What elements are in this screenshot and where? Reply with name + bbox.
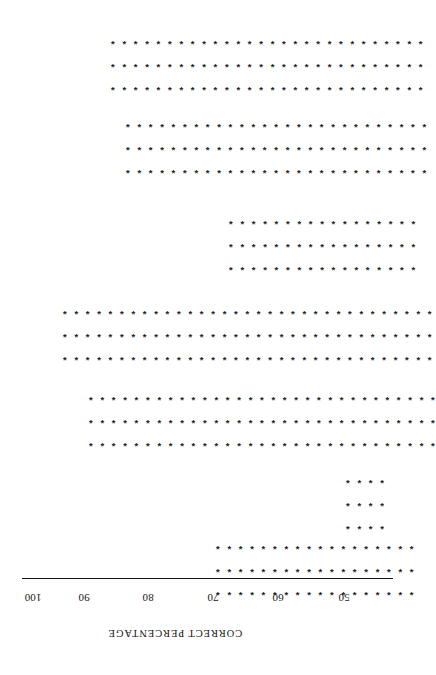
x-tick-80: 80 xyxy=(136,592,160,604)
bar-4-line-1: * * * * * * * * * * * * * * * * * * * * … xyxy=(62,312,433,320)
x-axis-title: CORRECT PERCENTAGE xyxy=(0,628,414,639)
x-tick-90: 90 xyxy=(72,592,96,604)
bar-2-line-1: * * * * * * * * * * * * * * * * * * * * … xyxy=(125,125,427,133)
x-tick-60: 60 xyxy=(266,592,290,604)
plot-area: * * * * * * * * * * * * * * * * * * * * … xyxy=(0,0,414,578)
bar-4-line-2: * * * * * * * * * * * * * * * * * * * * … xyxy=(62,335,433,343)
x-axis-tick-labels: 100 90 80 70 60 50 xyxy=(0,592,414,624)
bar-5-line-2: * * * * * * * * * * * * * * * * * * * * … xyxy=(88,421,436,429)
bar-6-line-1: * * * * xyxy=(345,481,385,489)
bar-7-line-2: * * * * * * * * * * * * * * * * * * xyxy=(215,570,415,578)
bar-2-line-3: * * * * * * * * * * * * * * * * * * * * … xyxy=(125,171,427,179)
bar-2: * * * * * * * * * * * * * * * * * * * * … xyxy=(125,110,427,194)
bar-4-line-3: * * * * * * * * * * * * * * * * * * * * … xyxy=(62,358,433,366)
x-axis-title-text: CORRECT PERCENTAGE xyxy=(108,628,306,639)
bar-3-line-1: * * * * * * * * * * * * * * * * * xyxy=(228,222,416,230)
x-axis-line xyxy=(22,578,393,579)
bar-1-line-3: * * * * * * * * * * * * * * * * * * * * … xyxy=(110,88,424,96)
bar-3-line-3: * * * * * * * * * * * * * * * * * xyxy=(228,268,416,276)
bar-7-line-1: * * * * * * * * * * * * * * * * * * xyxy=(215,547,415,555)
x-tick-70: 70 xyxy=(201,592,225,604)
bar-4: * * * * * * * * * * * * * * * * * * * * … xyxy=(62,297,433,381)
x-tick-50: 50 xyxy=(332,592,356,604)
bar-2-line-2: * * * * * * * * * * * * * * * * * * * * … xyxy=(125,148,427,156)
bar-1-line-2: * * * * * * * * * * * * * * * * * * * * … xyxy=(110,65,424,73)
bar-5: * * * * * * * * * * * * * * * * * * * * … xyxy=(88,383,436,467)
bar-3-line-2: * * * * * * * * * * * * * * * * * xyxy=(228,245,416,253)
bar-1-line-1: * * * * * * * * * * * * * * * * * * * * … xyxy=(110,42,424,50)
bar-1: * * * * * * * * * * * * * * * * * * * * … xyxy=(110,27,424,111)
bar-6-line-2: * * * * xyxy=(345,504,385,512)
bar-5-line-3: * * * * * * * * * * * * * * * * * * * * … xyxy=(88,444,436,452)
bar-3: * * * * * * * * * * * * * * * * * * * * … xyxy=(228,207,416,291)
bar-5-line-1: * * * * * * * * * * * * * * * * * * * * … xyxy=(88,398,436,406)
x-tick-100: 100 xyxy=(21,592,45,604)
